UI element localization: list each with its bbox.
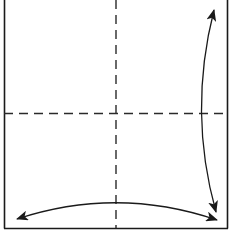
bottom-fold-arrow-icon	[17, 203, 217, 220]
right-fold-arrow-icon	[201, 10, 216, 212]
fold-diagram	[0, 0, 240, 232]
